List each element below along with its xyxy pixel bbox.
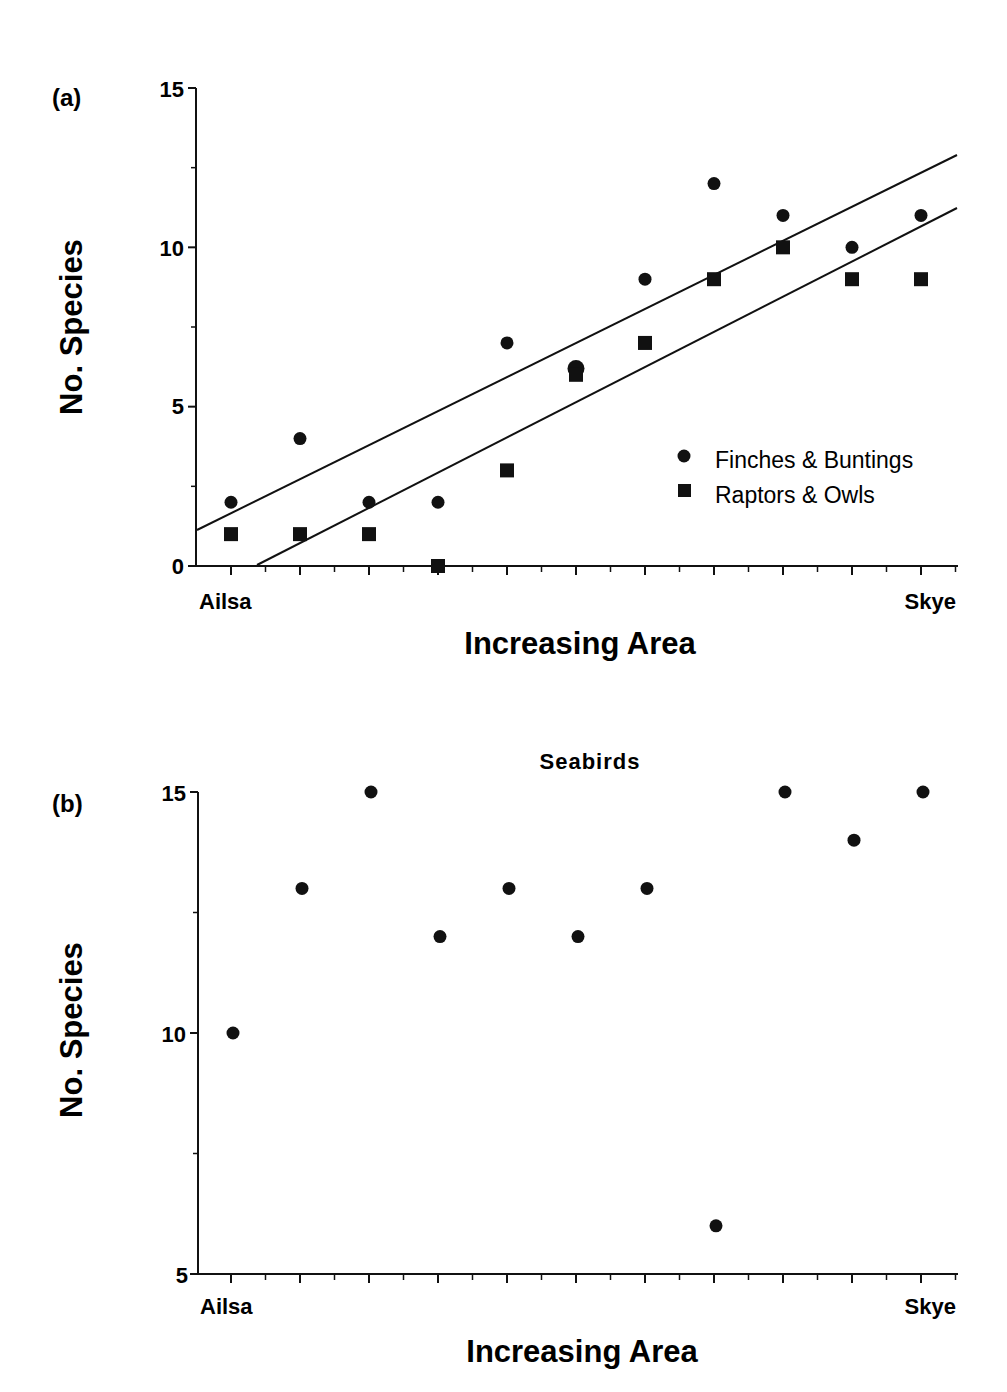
y-tick-label-10: 10	[160, 236, 184, 261]
chart-a: (a) 0 5 10 15 No. Species Ailsa Skye Inc…	[52, 77, 958, 661]
y-tick-label-15: 15	[160, 77, 184, 102]
x-ticks-b	[231, 1274, 956, 1283]
y-tick-label-10: 10	[162, 1022, 186, 1047]
legend-square-icon	[678, 484, 691, 497]
y-tick-label-15: 15	[162, 781, 186, 806]
chart-b: (b) Seabirds 5 10 15 No. Species Ailsa S…	[52, 749, 958, 1369]
data-point-square	[845, 272, 859, 286]
x-axis-title-b: Increasing Area	[466, 1334, 698, 1369]
x-axis-title-a: Increasing Area	[464, 626, 696, 661]
data-point-square	[776, 240, 790, 254]
y-ticks-b	[190, 792, 198, 1274]
y-axis-title-a: No. Species	[54, 239, 89, 415]
data-point-square	[362, 527, 376, 541]
fit-line-raptors	[257, 208, 957, 565]
data-point-square	[707, 272, 721, 286]
data-point-circle	[915, 209, 928, 222]
data-point-square	[500, 463, 514, 477]
data-point-square	[224, 527, 238, 541]
data-point-circle	[294, 432, 307, 445]
data-point-circle	[572, 930, 585, 943]
legend-a: Finches & Buntings Raptors & Owls	[678, 447, 914, 508]
figure: (a) 0 5 10 15 No. Species Ailsa Skye Inc…	[0, 0, 1007, 1392]
y-axis-title-b: No. Species	[54, 942, 89, 1118]
data-point-square	[293, 527, 307, 541]
data-point-circle	[917, 786, 930, 799]
data-point-circle	[503, 882, 516, 895]
x-cat-right-b: Skye	[905, 1294, 956, 1319]
chart-title-b: Seabirds	[540, 749, 641, 774]
x-ticks-a	[231, 566, 956, 575]
legend-circle-icon	[678, 450, 691, 463]
data-point-circle	[639, 273, 652, 286]
data-point-circle	[296, 882, 309, 895]
legend-label-finches: Finches & Buntings	[715, 447, 913, 473]
data-point-circle	[710, 1219, 723, 1232]
series-seabirds	[227, 786, 930, 1233]
data-point-circle	[777, 209, 790, 222]
y-tick-label-5: 5	[172, 394, 184, 419]
data-point-circle	[846, 241, 859, 254]
data-point-square	[569, 368, 583, 382]
data-point-square	[638, 336, 652, 350]
series-raptors-owls	[224, 240, 928, 573]
data-point-square	[431, 559, 445, 573]
data-point-circle	[434, 930, 447, 943]
data-point-circle	[708, 177, 721, 190]
data-point-circle	[501, 336, 514, 349]
x-cat-left-b: Ailsa	[200, 1294, 253, 1319]
data-point-circle	[641, 882, 654, 895]
y-ticks-a	[188, 88, 196, 566]
fit-line-finches	[197, 155, 957, 530]
data-point-circle	[227, 1027, 240, 1040]
data-point-circle	[365, 786, 378, 799]
data-point-circle	[779, 786, 792, 799]
x-cat-left-a: Ailsa	[199, 589, 252, 614]
y-tick-label-5: 5	[176, 1263, 188, 1288]
y-tick-label-0: 0	[172, 554, 184, 579]
panel-label-b: (b)	[52, 790, 83, 817]
x-cat-right-a: Skye	[905, 589, 956, 614]
data-point-circle	[848, 834, 861, 847]
panel-label-a: (a)	[52, 84, 81, 111]
data-point-circle	[432, 496, 445, 509]
data-point-circle	[363, 496, 376, 509]
data-point-circle	[225, 496, 238, 509]
legend-label-raptors: Raptors & Owls	[715, 482, 875, 508]
data-point-square	[914, 272, 928, 286]
